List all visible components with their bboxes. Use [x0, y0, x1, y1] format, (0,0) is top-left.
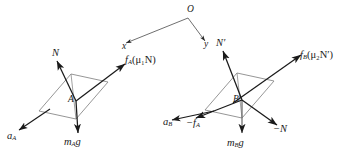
label-friction-force-b-paren: (μ₂N′): [307, 49, 333, 60]
label-reaction-friction-b-symbol: −f: [186, 117, 196, 128]
block-b-outline: [205, 73, 274, 118]
label-friction-force-a: fA(μ₁N): [125, 55, 156, 66]
label-friction-force-b: fB(μ₂N′): [300, 50, 333, 61]
label-acceleration-a-sub: A: [12, 134, 16, 141]
label-acceleration-b: aB: [163, 117, 172, 128]
axis-x-label: x: [122, 42, 126, 52]
label-normal-force-b: N′: [216, 38, 225, 49]
vector-normal-force-b: [223, 51, 242, 100]
vector-acceleration-a: [19, 109, 50, 130]
label-weight-force-b-symbol: m: [227, 137, 235, 148]
label-normal-force-a: N: [52, 48, 59, 59]
label-reaction-normal-b-text: −N: [273, 123, 287, 134]
label-weight-force-b-g: g: [239, 137, 244, 148]
x-axis-line: [126, 18, 188, 43]
label-friction-force-a-paren: (μ₁N): [132, 54, 156, 65]
label-normal-force-b-text: N′: [216, 37, 225, 48]
label-normal-force-a-text: N: [52, 47, 59, 58]
axis-origin-label: O: [187, 5, 194, 15]
label-reaction-friction-b-sub: A: [196, 121, 200, 128]
label-acceleration-a: aA: [7, 131, 16, 142]
label-reaction-friction-b: −fA: [186, 118, 200, 129]
label-weight-force-b: mBg: [227, 138, 244, 149]
block-b-center-label: B: [233, 95, 239, 105]
label-acceleration-b-sub: B: [168, 120, 172, 127]
physics-free-body-diagram: O x y A B N fA(μ₁N) mAg aA N′ fB(μ₂N′) m…: [0, 0, 354, 162]
block-a-center-label: A: [68, 95, 74, 105]
axis-y-label: y: [204, 40, 208, 50]
vector-friction-force-b: [233, 55, 301, 103]
diagram-canvas: [0, 0, 354, 162]
label-weight-force-a: mAg: [64, 137, 81, 148]
label-weight-force-a-g: g: [76, 136, 81, 147]
y-axis-line: [188, 18, 205, 41]
vector-friction-force-a: [76, 64, 125, 101]
label-reaction-normal-b: −N: [273, 124, 287, 135]
coordinate-axes: [126, 18, 205, 43]
label-weight-force-a-symbol: m: [64, 136, 72, 147]
